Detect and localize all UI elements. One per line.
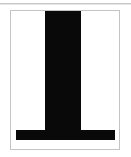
image-caption: Bold black perpendicular glyph on a bord… [0,0,1,1]
glyph-character: ⊥ [0,0,1,1]
top-divider-line-soft [0,4,131,5]
image-canvas: ⊥ Bold black perpendicular glyph on a bo… [0,0,131,157]
glyph-tile [10,10,120,150]
